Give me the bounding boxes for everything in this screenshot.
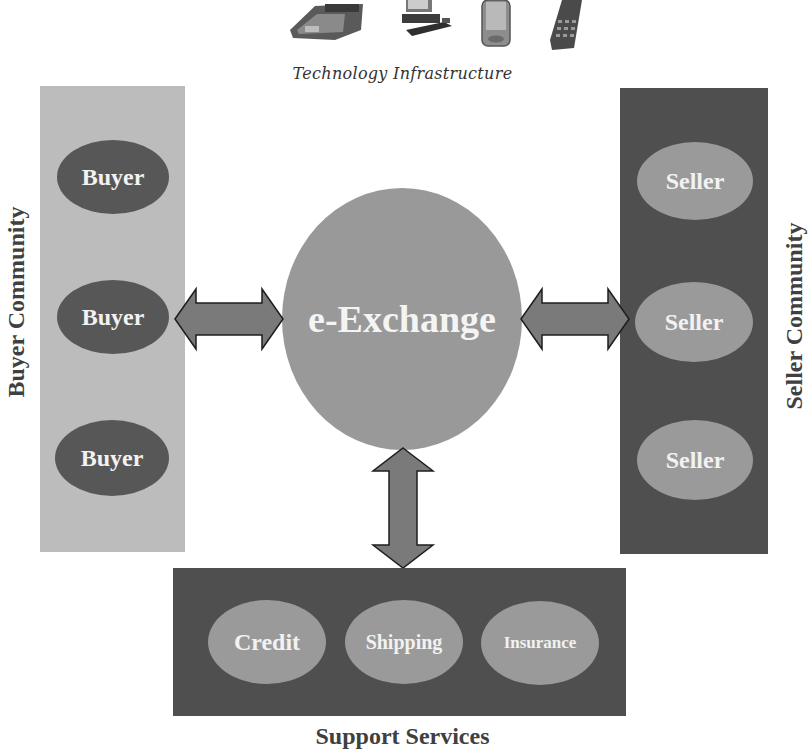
seller-node: Seller <box>637 142 753 220</box>
buyer-node-label: Buyer <box>81 445 144 472</box>
support-service-label: Credit <box>234 629 300 656</box>
pda-icon <box>480 0 512 48</box>
support-service-label: Insurance <box>504 633 577 653</box>
buyer-node-label: Buyer <box>82 164 145 191</box>
seller-node-label: Seller <box>666 168 725 195</box>
mobile-phone-icon <box>548 0 584 52</box>
seller-community-label: Seller Community <box>781 230 808 410</box>
support-service-credit: Credit <box>208 600 326 684</box>
seller-node-label: Seller <box>666 447 725 474</box>
double-arrow-vertical-icon <box>372 447 434 569</box>
support-services-label: Support Services <box>0 722 805 750</box>
double-arrow-left-icon <box>174 288 284 350</box>
fax-machine-icon <box>285 0 365 42</box>
buyer-community-label: Buyer Community <box>3 238 30 398</box>
buyer-node: Buyer <box>57 140 169 214</box>
buyer-node: Buyer <box>55 420 169 496</box>
support-service-label: Shipping <box>366 631 443 654</box>
buyer-node: Buyer <box>57 280 169 354</box>
seller-node-label: Seller <box>665 309 724 336</box>
support-service-insurance: Insurance <box>481 601 599 685</box>
double-arrow-right-icon <box>520 288 630 350</box>
buyer-node-label: Buyer <box>82 304 145 331</box>
e-exchange-label: e-Exchange <box>308 297 496 341</box>
support-service-shipping: Shipping <box>345 600 463 684</box>
seller-node: Seller <box>637 420 753 500</box>
e-exchange-hub: e-Exchange <box>282 188 522 450</box>
seller-node: Seller <box>635 282 753 362</box>
technology-infrastructure-label: Technology Infrastructure <box>0 64 805 83</box>
desktop-computer-icon <box>392 0 462 40</box>
